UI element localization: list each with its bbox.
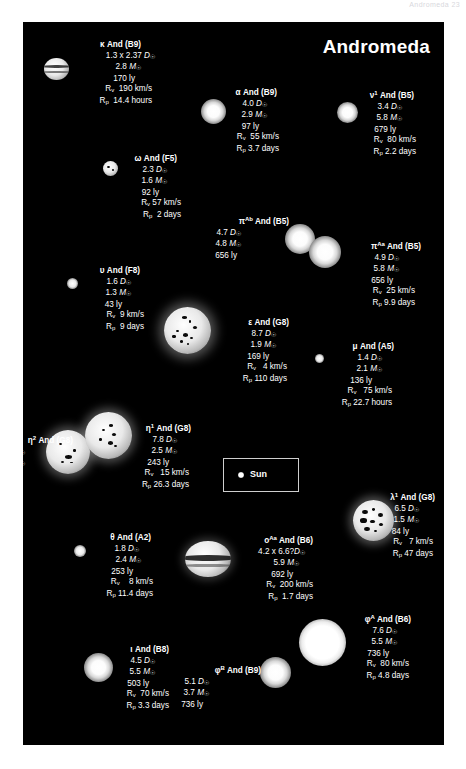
alpha-distance: 97 ly bbox=[163, 122, 281, 133]
eta1-distance: 243 ly bbox=[71, 458, 191, 469]
epsilon-rv: Rv 4 km/s bbox=[173, 362, 291, 374]
mu-diameter: 1.4 D☉ bbox=[276, 353, 396, 365]
mu-mass: 2.1 M☉ bbox=[276, 364, 396, 376]
star-name-alpha: α And (B9) bbox=[163, 88, 281, 99]
eta1-diameter: 7.8 D☉ bbox=[71, 435, 191, 447]
star-name-nu1: ν1 And (B5) bbox=[298, 88, 418, 102]
pi-ab-distance: 656 ly bbox=[169, 251, 289, 262]
star-name-omicron: οAa And (B6) bbox=[193, 533, 315, 547]
label-kappa-and: κ And (B9) 1.3 x 2.37 D☉ 2.8 M☉ 170 ly R… bbox=[23, 40, 155, 108]
phi-b-diameter: 5.1 D☉ bbox=[151, 677, 261, 689]
label-pi-aa-and: πAa And (B5) 4.9 D☉ 5.8 M☉ 656 ly Rv 25 … bbox=[303, 239, 421, 310]
star-name-eta1: η1 And (G8) bbox=[71, 421, 191, 435]
pi-aa-mass: 5.8 M☉ bbox=[303, 264, 421, 276]
pi-aa-rv: Rv 25 km/s bbox=[303, 286, 421, 298]
nu1-diameter: 3.4 D☉ bbox=[298, 102, 418, 114]
alpha-mass: 2.9 M☉ bbox=[163, 110, 281, 122]
star-name-theta: θ And (A2) bbox=[35, 533, 155, 544]
pi-aa-distance: 656 ly bbox=[303, 276, 421, 287]
nu1-rv: Rv 80 km/s bbox=[298, 135, 418, 147]
star-name-kappa: κ And (B9) bbox=[23, 40, 155, 51]
epsilon-rp: Rp 110 days bbox=[173, 374, 291, 386]
sun-legend-label: Sun bbox=[250, 469, 267, 479]
pi-aa-diameter: 4.9 D☉ bbox=[303, 253, 421, 265]
star-name-epsilon: ε And (G8) bbox=[173, 318, 291, 329]
label-omicron-and: οAa And (B6) 4.2 x 6.6?D☉ 5.9 M☉ 692 ly … bbox=[193, 533, 315, 604]
pi-ab-diameter: 4.7 D☉ bbox=[169, 228, 289, 240]
star-name-iota: ι And (B8) bbox=[51, 645, 171, 656]
mu-distance: 136 ly bbox=[276, 376, 396, 387]
label-epsilon-and: ε And (G8) 8.7 D☉ 1.9 M☉ 169 ly Rv 4 km/… bbox=[173, 318, 291, 386]
star-name-mu: μ And (A5) bbox=[276, 342, 396, 353]
star-phi-b-and bbox=[260, 657, 291, 688]
alpha-rv: Rv 55 km/s bbox=[163, 132, 281, 144]
star-name-pi-aa: πAa And (B5) bbox=[303, 239, 421, 253]
label-nu1-and: ν1 And (B5) 3.4 D☉ 5.8 M☉ 679 ly Rv 80 k… bbox=[298, 88, 418, 159]
phi-a-diameter: 7.6 D☉ bbox=[291, 626, 413, 638]
theta-distance: 253 ly bbox=[35, 567, 155, 578]
star-name-lambda1: λ1 And (G8) bbox=[313, 490, 435, 504]
pi-ab-mass: 4.8 M☉ bbox=[169, 239, 289, 251]
omega-distance: 92 ly bbox=[65, 188, 183, 199]
omicron-mass: 5.9 M☉ bbox=[193, 558, 315, 570]
eta1-rp: Rp 26.3 days bbox=[71, 480, 191, 492]
label-pi-ab-and: πAb And (B5) 4.7 D☉ 4.8 M☉ 656 ly bbox=[169, 214, 289, 261]
nu1-mass: 5.8 M☉ bbox=[298, 113, 418, 125]
lambda1-rv: Rv 7 km/s bbox=[313, 537, 435, 549]
omicron-distance: 692 ly bbox=[193, 570, 315, 581]
label-lambda1-and: λ1 And (G8) 6.5 D☉ 1.5 M☉ 84 ly Rv 7 km/… bbox=[313, 490, 435, 561]
theta-mass: 2.4 M☉ bbox=[35, 555, 155, 567]
upsilon-rv: Rv 9 km/s bbox=[28, 310, 146, 322]
omega-mass: 1.6 M☉ bbox=[65, 176, 183, 188]
label-mu-and: μ And (A5) 1.4 D☉ 2.1 M☉ 136 ly Rv 75 km… bbox=[276, 342, 396, 410]
phi-a-mass: 5.5 M☉ bbox=[291, 637, 413, 649]
star-name-upsilon: υ And (F8) bbox=[28, 266, 146, 277]
epsilon-mass: 1.9 M☉ bbox=[173, 340, 291, 352]
phi-a-rv: Rv 80 km/s bbox=[291, 659, 413, 671]
label-omega-and: ω And (F5) 2.3 D☉ 1.6 M☉ 92 ly Rv 57 km/… bbox=[65, 154, 183, 222]
star-chart-plate: Andromeda κ And (B9) 1.3 x 2.37 D☉ 2.8 M… bbox=[23, 22, 444, 745]
label-phi-b-and: φB And (B9) 5.1 D☉ 3.7 M☉ 736 ly bbox=[151, 663, 261, 710]
phi-b-mass: 3.7 M☉ bbox=[151, 688, 261, 700]
kappa-diameter: 1.3 x 2.37 D☉ bbox=[23, 51, 155, 63]
phi-a-rp: Rp 4.8 days bbox=[291, 671, 413, 683]
kappa-rp: Rp 14.4 hours bbox=[23, 96, 155, 108]
kappa-mass: 2.8 M☉ bbox=[23, 62, 155, 74]
omicron-rv: Rv 200 km/s bbox=[193, 580, 315, 592]
upsilon-rp: Rp 9 days bbox=[28, 322, 146, 334]
omega-diameter: 2.3 D☉ bbox=[65, 165, 183, 177]
lambda1-rp: Rp 47 days bbox=[313, 549, 435, 561]
sun-icon bbox=[238, 472, 244, 478]
mu-rp: Rp 22.7 hours bbox=[276, 398, 396, 410]
mu-rv: Rv 75 km/s bbox=[276, 386, 396, 398]
upsilon-distance: 43 ly bbox=[28, 300, 146, 311]
star-name-eta2: η2 And (G8) bbox=[23, 433, 73, 447]
scan-page-header: Andromeda 23 bbox=[300, 1, 460, 10]
omicron-rp: Rp 1.7 days bbox=[193, 592, 315, 604]
star-name-phi-a: φA And (B6) bbox=[291, 612, 413, 626]
eta1-mass: 2.5 M☉ bbox=[71, 446, 191, 458]
nu1-rp: Rp 2.2 days bbox=[298, 147, 418, 159]
eta1-rv: Rv 15 km/s bbox=[71, 468, 191, 480]
kappa-rv: Rv 190 km/s bbox=[23, 84, 155, 96]
eta2-mass: 2.3M☉ bbox=[23, 458, 73, 470]
nu1-distance: 679 ly bbox=[298, 125, 418, 136]
upsilon-diameter: 1.6 D☉ bbox=[28, 277, 146, 289]
omega-rp: Rp 2 days bbox=[65, 210, 183, 222]
theta-diameter: 1.8 D☉ bbox=[35, 544, 155, 556]
theta-rp: Rp 11.4 days bbox=[35, 589, 155, 601]
lambda1-diameter: 6.5 D☉ bbox=[313, 504, 435, 516]
label-upsilon-and: υ And (F8) 1.6 D☉ 1.3 M☉ 43 ly Rv 9 km/s… bbox=[28, 266, 146, 334]
star-name-phi-b: φB And (B9) bbox=[151, 663, 261, 677]
pi-aa-rp: Rp 9.9 days bbox=[303, 298, 421, 310]
theta-rv: Rv 8 km/s bbox=[35, 577, 155, 589]
page-root: Andromeda 23 Andromeda κ And (B9) 1.3 x … bbox=[0, 0, 466, 769]
label-eta1-and: η1 And (G8) 7.8 D☉ 2.5 M☉ 243 ly Rv 15 k… bbox=[71, 421, 191, 492]
page-title: Andromeda bbox=[323, 36, 430, 58]
eta2-diameter: 7.2 D☉ bbox=[23, 447, 73, 459]
star-name-pi-ab: πAb And (B5) bbox=[169, 214, 289, 228]
omicron-diameter: 4.2 x 6.6?D☉ bbox=[193, 547, 315, 559]
phi-b-distance: 736 ly bbox=[151, 700, 261, 711]
star-name-omega: ω And (F5) bbox=[65, 154, 183, 165]
eta2-distance: 243 ly bbox=[23, 470, 73, 481]
